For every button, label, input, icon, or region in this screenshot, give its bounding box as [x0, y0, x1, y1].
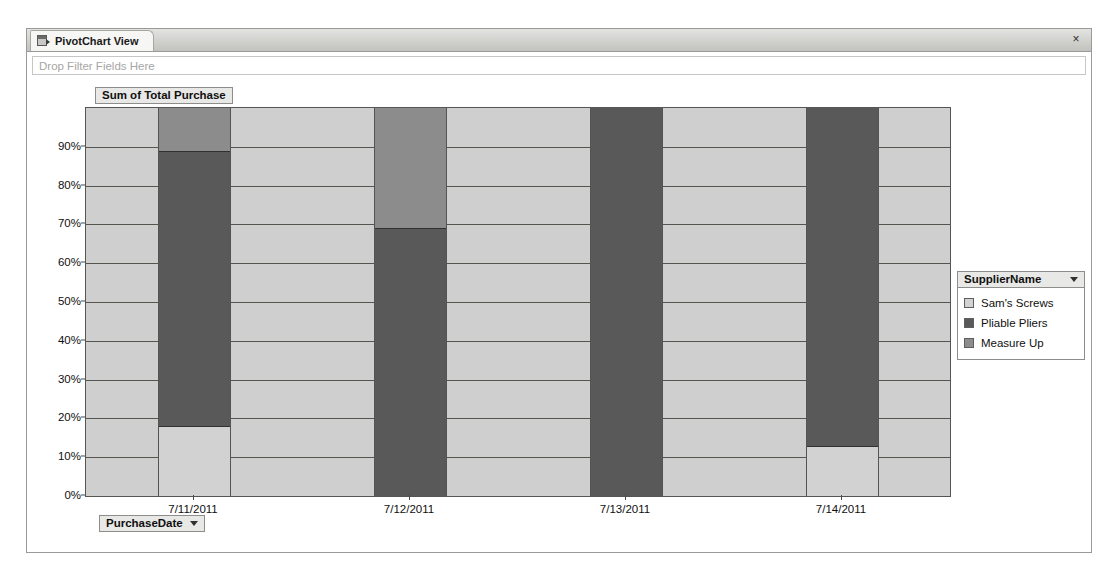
- x-axis-label: 7/11/2011: [168, 503, 217, 515]
- y-axis-label: 90%: [41, 140, 81, 152]
- bar-segment[interactable]: [375, 228, 446, 496]
- legend-item-label: Pliable Pliers: [981, 317, 1047, 329]
- legend-item[interactable]: Pliable Pliers: [964, 313, 1078, 333]
- y-axis-label: 40%: [41, 334, 81, 346]
- x-axis-tick: [409, 495, 410, 500]
- filter-drop-zone-placeholder: Drop Filter Fields Here: [39, 60, 155, 72]
- y-axis-label: 30%: [41, 373, 81, 385]
- close-icon[interactable]: ×: [1068, 32, 1084, 48]
- legend: SupplierName Sam's ScrewsPliable PliersM…: [957, 271, 1085, 360]
- bar-segment[interactable]: [159, 426, 230, 496]
- bar-stack[interactable]: [806, 108, 879, 496]
- tab-label: PivotChart View: [55, 35, 139, 47]
- chevron-down-icon: [1070, 277, 1078, 282]
- legend-item-label: Sam's Screws: [981, 297, 1054, 309]
- tab-pivotchart-view[interactable]: PivotChart View: [30, 30, 154, 51]
- pivotchart-view-icon: [37, 35, 50, 47]
- filter-drop-zone[interactable]: Drop Filter Fields Here: [32, 56, 1086, 75]
- y-axis-label: 10%: [41, 450, 81, 462]
- bar-segment[interactable]: [159, 108, 230, 151]
- x-axis-label: 7/14/2011: [816, 503, 866, 515]
- bar-stack[interactable]: [158, 108, 231, 496]
- chart-title: Sum of Total Purchase: [95, 87, 233, 104]
- y-axis-label: 60%: [41, 256, 81, 268]
- y-axis-label: 0%: [41, 489, 81, 501]
- bar-segment[interactable]: [591, 108, 662, 496]
- y-axis: 0%10%20%30%40%50%60%70%80%90%: [35, 107, 81, 497]
- plot-area: [85, 107, 951, 497]
- y-axis-label: 20%: [41, 411, 81, 423]
- window-titlebar: PivotChart View ×: [27, 29, 1091, 52]
- legend-items: Sam's ScrewsPliable PliersMeasure Up: [957, 288, 1085, 360]
- category-field-label: PurchaseDate: [106, 517, 183, 529]
- legend-title: SupplierName: [964, 273, 1041, 285]
- legend-item[interactable]: Sam's Screws: [964, 293, 1078, 313]
- x-axis-tick: [841, 495, 842, 500]
- y-axis-label: 80%: [41, 179, 81, 191]
- y-axis-label: 70%: [41, 217, 81, 229]
- bar-stack[interactable]: [590, 108, 663, 496]
- legend-swatch-icon: [964, 338, 974, 348]
- category-field-button[interactable]: PurchaseDate: [99, 515, 205, 532]
- y-axis-label: 50%: [41, 295, 81, 307]
- chart-area: Sum of Total Purchase 0%10%20%30%40%50%6…: [27, 79, 1091, 552]
- pivotchart-window: PivotChart View × Drop Filter Fields Her…: [26, 28, 1092, 553]
- x-axis-tick: [193, 495, 194, 500]
- x-axis-tick: [625, 495, 626, 500]
- x-axis-label: 7/13/2011: [600, 503, 650, 515]
- legend-swatch-icon: [964, 298, 974, 308]
- legend-item[interactable]: Measure Up: [964, 333, 1078, 353]
- bar-segment[interactable]: [375, 108, 446, 228]
- bar-segment[interactable]: [807, 108, 878, 446]
- bar-stack[interactable]: [374, 108, 447, 496]
- chevron-down-icon: [190, 521, 198, 526]
- x-axis-label: 7/12/2011: [384, 503, 434, 515]
- legend-header[interactable]: SupplierName: [957, 271, 1085, 288]
- legend-swatch-icon: [964, 318, 974, 328]
- legend-item-label: Measure Up: [981, 337, 1044, 349]
- bar-segment[interactable]: [159, 151, 230, 426]
- bar-segment[interactable]: [807, 446, 878, 496]
